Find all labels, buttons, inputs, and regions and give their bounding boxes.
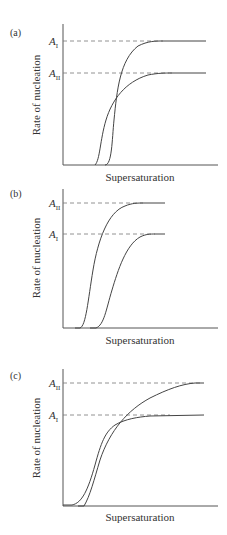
panel-b-lower-level-label: AI: [48, 228, 59, 243]
nucleation-figure: (a) AI AII Supersaturation Rate of nucle…: [0, 0, 227, 535]
panel-c-tag: (c): [10, 370, 21, 382]
panel-a-lower-level-label: AII: [48, 67, 61, 82]
panel-b-curve-form-I: [90, 234, 165, 328]
panel-b-y-label: Rate of nucleation: [30, 217, 42, 298]
panel-a-y-label: Rate of nucleation: [30, 54, 42, 135]
panel-a-x-label: Supersaturation: [105, 171, 175, 183]
panel-c-upper-level-label: AII: [48, 377, 61, 392]
panel-a-tag: (a): [10, 27, 21, 39]
panel-b: (b) AII AI Supersaturation Rate of nucle…: [10, 188, 218, 346]
panel-c-x-label: Supersaturation: [105, 511, 175, 523]
panel-a-upper-level-label: AI: [48, 35, 59, 50]
panel-a-curve-form-I: [105, 41, 206, 165]
panel-b-x-label: Supersaturation: [105, 334, 175, 346]
panel-b-tag: (b): [10, 188, 22, 200]
panel-c-y-label: Rate of nucleation: [30, 397, 42, 478]
panel-b-upper-level-label: AII: [48, 197, 61, 212]
panel-c-curve-form-II: [78, 383, 204, 506]
panel-a: (a) AI AII Supersaturation Rate of nucle…: [10, 24, 218, 183]
panel-c-lower-level-label: AI: [48, 409, 59, 424]
panel-c: (c) AII AI Supersaturation Rate of nucle…: [10, 369, 218, 523]
panel-c-curve-form-I: [63, 415, 204, 505]
